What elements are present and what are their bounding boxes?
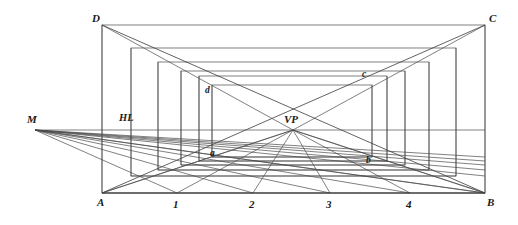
baseline-division-label-3: 3 — [325, 198, 332, 210]
point-label-C: C — [489, 12, 497, 24]
perspective-drawing-canvas: ABCDabcdVPMHL1234 — [0, 0, 518, 225]
point-label-b: b — [366, 155, 371, 165]
point-label-D: D — [91, 12, 100, 24]
perspective-diagram: ABCDabcdVPMHL1234 — [0, 0, 518, 225]
point-label-d: d — [205, 85, 210, 95]
measuring-point-label: M — [26, 113, 38, 125]
canvas-background — [0, 0, 518, 225]
baseline-division-label-1: 1 — [173, 198, 179, 210]
point-label-a: a — [210, 148, 215, 158]
baseline-division-label-2: 2 — [248, 198, 255, 210]
baseline-division-label-4: 4 — [405, 198, 412, 210]
horizon-line-label: HL — [118, 112, 134, 123]
point-label-A: A — [96, 196, 104, 208]
point-label-B: B — [486, 196, 494, 208]
vanishing-point-label: VP — [284, 113, 298, 125]
